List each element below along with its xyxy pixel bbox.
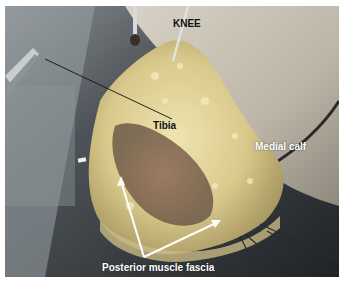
probe-instrument — [133, 6, 137, 36]
surgical-photo: KNEE Tibia Medial calf Posterior muscle … — [5, 6, 339, 277]
label-tibia: Tibia — [153, 120, 176, 131]
label-knee: KNEE — [173, 18, 201, 29]
label-posterior-muscle-fascia: Posterior muscle fascia — [102, 262, 214, 273]
label-medial-calf: Medial calf — [255, 141, 306, 152]
